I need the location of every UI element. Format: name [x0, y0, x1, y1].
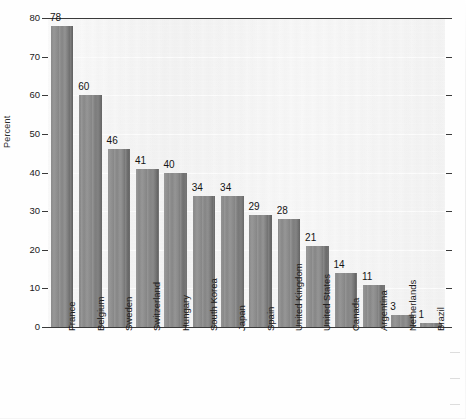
y-axis-tick	[446, 327, 452, 328]
y-axis-tick	[446, 57, 452, 58]
y-axis-tick	[42, 250, 48, 251]
bar-value-label: 11	[362, 271, 372, 282]
x-axis-label: Canada	[350, 298, 361, 331]
y-axis-tick	[446, 211, 452, 212]
x-axis-label: Hungary	[180, 295, 191, 331]
y-axis-tick	[42, 18, 48, 19]
y-axis-tick-label: 70	[14, 51, 40, 62]
bar-value-label: 34	[220, 182, 231, 193]
bar	[51, 26, 74, 327]
y-axis-tick	[446, 134, 452, 135]
y-axis-tick-label: 20	[14, 244, 40, 255]
y-axis-tick	[42, 57, 48, 58]
x-axis-category-labels: FranceBelgiumSwedenSwitzerlandHungarySou…	[48, 331, 445, 419]
bar-value-label: 28	[277, 205, 288, 216]
y-axis-tick-label: 50	[14, 128, 40, 139]
x-axis-label: Japan	[236, 305, 247, 331]
bar-value-label: 29	[248, 201, 259, 212]
y-axis-tick	[42, 173, 48, 174]
x-axis-label: France	[66, 301, 77, 331]
plot-area	[48, 18, 445, 327]
y-axis-tick-label: 80	[14, 12, 40, 23]
y-axis-tick-label: 10	[14, 282, 40, 293]
scan-artifact-tick	[450, 378, 460, 379]
y-axis-tick	[42, 95, 48, 96]
bar-value-label: 34	[192, 182, 203, 193]
x-axis-label: Netherlands	[407, 280, 418, 331]
y-axis-tick	[446, 288, 452, 289]
bar-series	[48, 18, 445, 327]
x-axis-label: Argentina	[378, 290, 389, 331]
x-axis-label: United Kingdom	[293, 263, 304, 331]
y-axis-title: Percent	[2, 58, 12, 148]
bar-value-label: 41	[135, 155, 146, 166]
bar-value-label: 40	[163, 159, 174, 170]
y-axis-tick	[446, 18, 452, 19]
x-axis-label: South Korea	[208, 278, 219, 331]
bar-value-label: 46	[107, 135, 118, 146]
scan-artifact-tick	[450, 404, 460, 405]
y-axis-tick	[42, 327, 48, 328]
scan-artifact-tick	[450, 352, 460, 353]
y-axis-tick	[42, 211, 48, 212]
x-axis-label: Brazil	[435, 307, 446, 331]
y-axis-tick	[42, 134, 48, 135]
bar-value-label: 78	[50, 12, 61, 23]
y-axis-tick-label: 60	[14, 89, 40, 100]
y-axis-tick	[446, 173, 452, 174]
y-axis-tick	[446, 95, 452, 96]
y-axis-tick-label: 40	[14, 167, 40, 178]
y-axis-tick-label: 0	[14, 321, 40, 332]
bar-value-label: 14	[334, 259, 345, 270]
bar	[79, 95, 102, 327]
bar-value-label: 3	[390, 301, 396, 312]
x-axis-label: Spain	[265, 307, 276, 331]
y-axis-tick	[42, 288, 48, 289]
y-axis-tick-label: 30	[14, 205, 40, 216]
bar-value-label: 21	[305, 232, 316, 243]
x-axis-label: Belgium	[95, 297, 106, 331]
x-axis-label: United States	[321, 274, 332, 331]
x-axis-label: Switzerland	[151, 282, 162, 331]
y-axis-tick	[446, 250, 452, 251]
axis-top-line	[48, 18, 446, 19]
bar-value-label: 60	[78, 81, 89, 92]
x-axis-label: Sweden	[123, 297, 134, 331]
bar-chart-figure: Percent 01020304050607080 78604641403434…	[0, 0, 466, 419]
bar-value-label: 1	[419, 309, 425, 320]
